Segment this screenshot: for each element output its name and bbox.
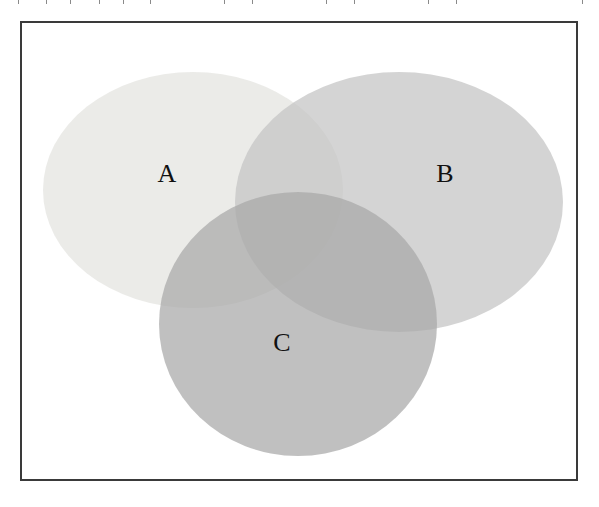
set-c-label: C	[273, 330, 290, 356]
set-a-label: A	[158, 161, 177, 187]
set-b-label: B	[436, 161, 453, 187]
venn-diagram	[0, 0, 599, 507]
set-c-ellipse	[159, 192, 437, 456]
